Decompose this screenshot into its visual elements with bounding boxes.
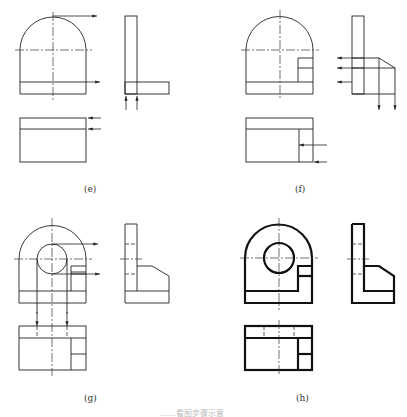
top-view-f (246, 118, 327, 162)
panel-label-h: (h) (296, 393, 309, 403)
figure-caption: ……看图步骤示意 (160, 408, 224, 417)
front-view-e (15, 12, 100, 100)
panel-label-g: (g) (84, 393, 97, 403)
side-view-h (347, 224, 394, 303)
panel-e: (e) (15, 12, 169, 194)
side-view-e (125, 16, 169, 110)
top-view-h (245, 320, 312, 376)
side-view-f (337, 16, 395, 110)
panel-label-f: (f) (295, 184, 305, 194)
panel-g: (g) (14, 218, 169, 403)
orthographic-views-figure: (e) (f) (0, 0, 407, 417)
top-view-g (19, 326, 86, 370)
panel-f: (f) (241, 10, 395, 194)
panel-label-e: (e) (84, 184, 96, 194)
side-view-g (120, 224, 169, 303)
front-view-g (14, 218, 100, 376)
panel-h: (h) (240, 218, 394, 403)
front-view-h (240, 218, 318, 310)
top-view-e (20, 118, 101, 162)
front-view-f (241, 10, 319, 100)
